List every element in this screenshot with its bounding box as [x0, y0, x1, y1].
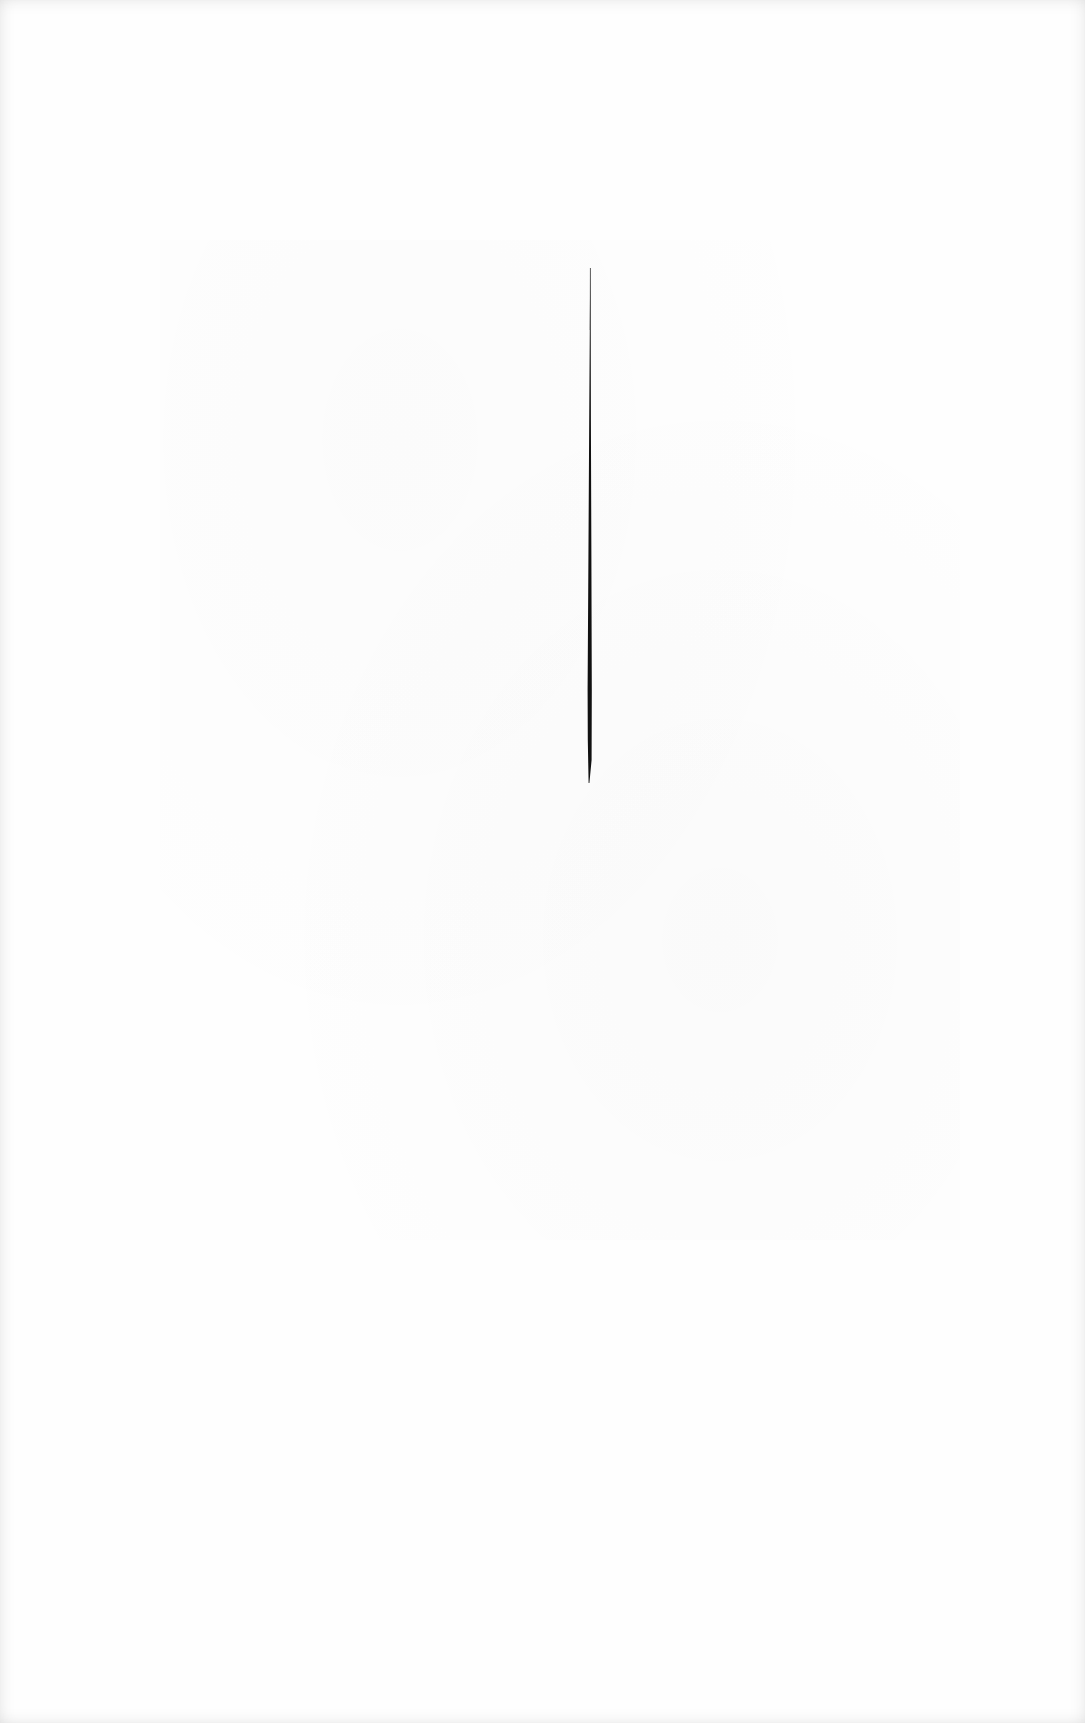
vertical-ink-stroke	[0, 0, 1085, 1723]
scanned-blank-page	[0, 0, 1085, 1723]
